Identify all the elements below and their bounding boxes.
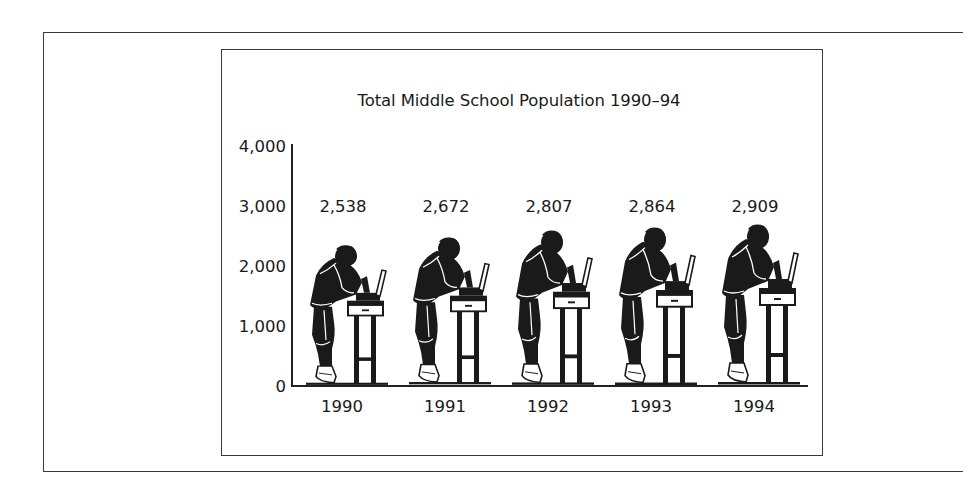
value-label: 2,807 [504, 197, 594, 217]
y-tick-label: 0 [276, 377, 287, 397]
student-at-microscope-icon [306, 244, 388, 385]
student-at-microscope-icon [718, 223, 800, 385]
x-category-label: 1994 [709, 397, 799, 417]
x-axis-line [291, 385, 808, 387]
value-label: 2,864 [607, 197, 697, 217]
student-at-microscope-icon [615, 226, 697, 385]
value-label: 2,672 [401, 197, 491, 217]
student-at-microscope-icon [409, 236, 491, 385]
chart-title: Total Middle School Population 1990–94 [0, 91, 967, 110]
y-tick-label: 4,000 [239, 137, 286, 157]
x-category-label: 1991 [400, 397, 490, 417]
y-tick-label: 1,000 [239, 317, 286, 337]
value-label: 2,909 [710, 197, 800, 217]
y-tick-label: 2,000 [239, 257, 286, 277]
student-at-microscope-icon [512, 229, 594, 385]
x-category-label: 1993 [606, 397, 696, 417]
x-category-label: 1990 [297, 397, 387, 417]
value-label: 2,538 [298, 197, 388, 217]
x-category-label: 1992 [503, 397, 593, 417]
y-axis-line [291, 144, 293, 386]
y-tick-label: 3,000 [239, 197, 286, 217]
